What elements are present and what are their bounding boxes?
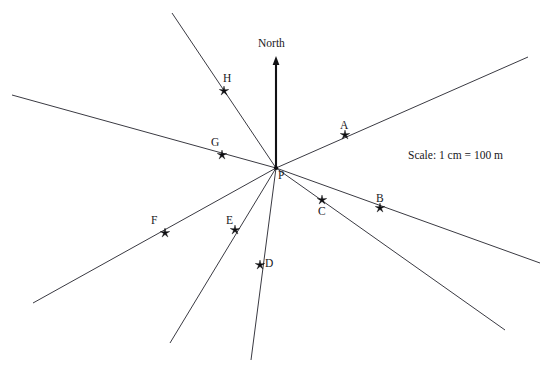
point-label-E: E [226,215,233,227]
north-arrowhead-icon [273,56,280,65]
point-label-F: F [151,215,157,227]
point-label-B: B [376,193,384,205]
ray-C [276,168,505,330]
star-marker-H [219,86,229,95]
point-label-C: C [318,206,326,218]
star-marker-F [160,228,170,237]
point-label-P: P [278,170,284,182]
point-label-A: A [340,120,348,132]
diagram-canvas [0,0,552,365]
north-label: North [258,38,285,50]
star-marker-G [217,150,227,159]
bearings-diagram: North Scale: 1 cm = 100 m P ABCDEFGH [0,0,552,365]
point-label-G: G [211,137,219,149]
ray-G [12,95,276,168]
north-arrow-group [273,56,280,168]
star-markers-group [160,86,385,269]
ray-E [170,168,276,343]
scale-note: Scale: 1 cm = 100 m [408,150,503,162]
point-label-H: H [223,73,231,85]
ray-B [276,168,540,263]
point-label-D: D [265,258,273,270]
ray-F [33,168,276,303]
